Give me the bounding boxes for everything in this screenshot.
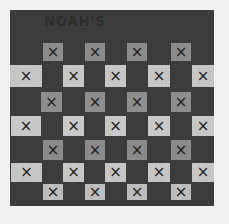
x-mark-icon: × [45,95,58,110]
x-mark-icon: × [197,119,210,134]
board-title: NOAH'S [44,13,106,30]
marked-square: × [171,43,191,61]
marked-square: × [63,65,84,87]
marked-square: × [192,65,214,87]
x-mark-icon: × [175,143,188,158]
marked-square: × [127,140,147,160]
marked-square: × [127,184,147,200]
x-mark-icon: × [131,185,144,200]
x-mark-icon: × [153,165,166,180]
x-mark-icon: × [175,95,188,110]
marked-square: × [171,140,191,160]
x-mark-icon: × [197,165,210,180]
x-mark-icon: × [197,69,210,84]
marked-square: × [192,163,214,182]
x-mark-icon: × [47,143,60,158]
x-mark-icon: × [47,185,60,200]
x-mark-icon: × [175,45,188,60]
x-mark-icon: × [20,165,33,180]
x-mark-icon: × [175,185,188,200]
x-mark-icon: × [67,165,80,180]
marked-square: × [41,92,62,112]
marked-square: × [127,92,147,112]
marked-square: × [85,184,105,200]
x-mark-icon: × [20,69,33,84]
marked-square: × [85,140,105,160]
x-mark-icon: × [153,119,166,134]
x-mark-icon: × [109,165,122,180]
marked-square: × [105,163,126,182]
x-mark-icon: × [89,143,102,158]
x-mark-icon: × [67,69,80,84]
marked-square: × [85,43,105,61]
marked-square: × [148,163,170,182]
x-mark-icon: × [109,119,122,134]
marked-square: × [43,43,63,61]
marked-square: × [105,65,126,87]
marked-square: × [10,65,42,87]
marked-square: × [171,184,191,200]
marked-square: × [43,184,63,200]
marked-square: × [63,163,84,182]
marked-square: × [11,163,42,182]
marked-square: × [63,116,84,136]
marked-square: × [171,92,191,112]
marked-square: × [105,116,126,136]
marked-square: × [43,140,63,160]
marked-square: × [148,116,170,136]
x-mark-icon: × [20,119,33,134]
marked-square: × [148,65,170,87]
x-mark-icon: × [47,45,60,60]
x-mark-icon: × [131,143,144,158]
x-mark-icon: × [67,119,80,134]
marked-square: × [85,92,105,112]
marked-square: × [127,43,147,61]
x-mark-icon: × [131,45,144,60]
marked-square: × [192,116,214,136]
x-mark-icon: × [89,95,102,110]
x-mark-icon: × [153,69,166,84]
x-mark-icon: × [109,69,122,84]
x-mark-icon: × [89,185,102,200]
x-mark-icon: × [131,95,144,110]
marked-square: × [11,116,41,136]
x-mark-icon: × [89,45,102,60]
